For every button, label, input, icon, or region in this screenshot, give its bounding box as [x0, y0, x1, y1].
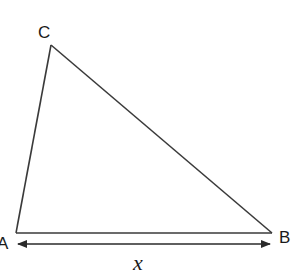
triangle-diagram: C A B x [0, 0, 296, 278]
vertex-label-b: B [279, 228, 290, 247]
side-AC [16, 45, 51, 233]
vertex-label-c: C [38, 23, 50, 42]
length-label-x: x [132, 250, 143, 275]
vertex-label-a: A [0, 234, 9, 253]
side-CB [51, 45, 272, 233]
